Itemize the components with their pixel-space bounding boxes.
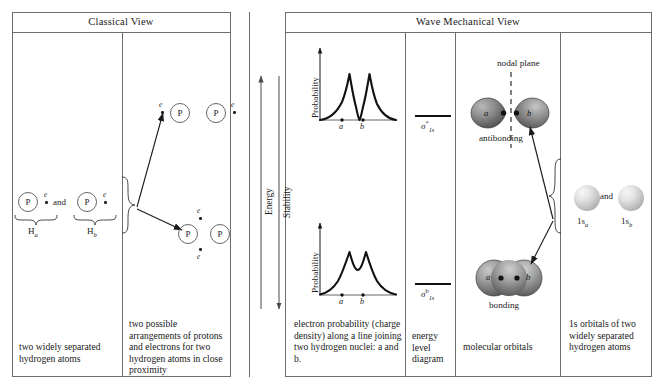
tick-label-b-bottom: b: [360, 297, 364, 306]
electron-label-below: e: [197, 252, 200, 261]
electron-dot-below: [199, 248, 202, 251]
electron-b-dot: [104, 201, 107, 204]
classical-header-bottom-rule: [12, 32, 230, 33]
electron-a-dot: [45, 201, 48, 204]
antibonding-lobe-b-label: b: [527, 108, 531, 118]
proton-b-circle: P: [77, 192, 97, 212]
wave-rule-2: [455, 32, 456, 377]
proton-circle-bottom-right: P: [210, 224, 230, 244]
electron-b-label: e: [103, 190, 106, 199]
wave-mechanical-view-header: Wave Mechanical View: [285, 16, 651, 27]
and-text-classical: and: [53, 197, 66, 207]
electron-label-outer-right: e: [231, 100, 234, 109]
antibonding-probability-curve: [316, 44, 398, 128]
caption-two-widely-separated: two widely separated hydrogen atoms: [19, 341, 117, 364]
electron-dot-outer-left: [161, 111, 164, 114]
orbital-1s-b-label: 1sb: [621, 216, 632, 228]
nodal-plane-label: nodal plane: [497, 58, 540, 68]
electron-dot-above: [199, 217, 202, 220]
wave-bottom-rule: [285, 376, 651, 377]
bonding-energy-level: [415, 283, 451, 285]
antibonding-lobe-a-label: a: [484, 108, 488, 118]
bonding-label: bonding: [489, 300, 519, 310]
electron-a-label: e: [44, 190, 47, 199]
classical-view-header: Classical View: [12, 16, 230, 27]
antibonding-level-label: σ*1s: [421, 119, 434, 133]
electron-label-outer-left: e: [159, 100, 162, 109]
wave-rule-1: [405, 32, 406, 377]
classical-header-top-rule: [12, 12, 230, 13]
caption-energy-level-diagram: energy level diagram: [412, 330, 454, 365]
wave-header-bottom-rule: [285, 32, 651, 33]
bonding-lobe-b-label: b: [526, 272, 530, 282]
tick-label-a-top: a: [339, 122, 343, 131]
caption-molecular-orbitals: molecular orbitals: [463, 341, 559, 353]
figure-root: Classical View Wave Mechanical View P e …: [0, 0, 663, 388]
caption-electron-probability: electron probability (charge density) al…: [294, 318, 402, 364]
caption-two-possible-arrangements: two possible arrangements of protons and…: [129, 318, 227, 376]
stability-axis-label: Stability: [282, 186, 292, 218]
bonding-level-label: σb1s: [421, 287, 434, 301]
energy-axis-label: Energy: [264, 188, 274, 215]
tick-label-a-bottom: a: [339, 297, 343, 306]
electron-dot-outer-right: [233, 111, 236, 114]
sphere-1s-b: [618, 185, 644, 211]
brace-atom-b: [73, 214, 123, 228]
atom-a-label: Ha: [28, 226, 38, 238]
wave-right-rule: [651, 12, 652, 377]
classical-left-rule: [12, 12, 13, 377]
wave-header-top-rule: [285, 12, 651, 13]
caption-1s-orbitals: 1s orbitals of two widely separated hydr…: [569, 318, 647, 353]
proton-circle-bottom-left: P: [178, 224, 198, 244]
proton-circle-top-right: P: [206, 103, 226, 123]
electron-label-above: e: [197, 206, 200, 215]
classical-bottom-rule: [12, 376, 230, 377]
brace-atom-a: [14, 214, 64, 228]
bonding-probability-curve: [316, 219, 398, 303]
and-text-orbitals: and: [600, 191, 613, 201]
proton-circle-top-left: P: [170, 103, 190, 123]
sphere-1s-a: [574, 185, 600, 211]
proton-a-circle: P: [18, 192, 38, 212]
tick-label-b-top: b: [360, 122, 364, 131]
antibonding-energy-level: [415, 115, 451, 117]
bonding-lobe-a-label: a: [486, 272, 490, 282]
orbital-1s-a-label: 1sa: [577, 216, 588, 228]
atom-b-label: Hb: [87, 226, 97, 238]
atomic-orbitals-brace: [548, 158, 564, 238]
